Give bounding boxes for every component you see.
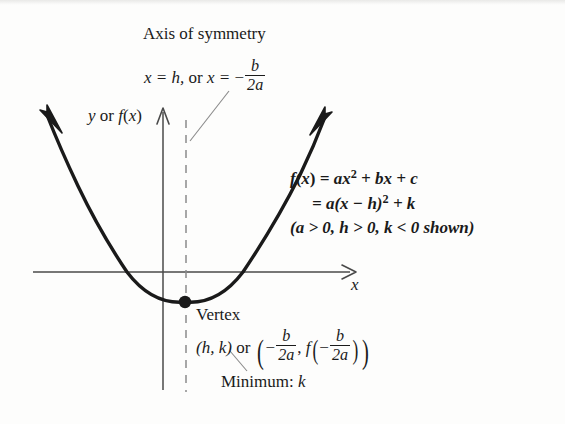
vertex-fraction-2: b 2a	[330, 328, 350, 364]
equation-line-standard-form: f(x) = ax2 + bx + c	[290, 168, 474, 193]
minimum-label-text: Minimum:	[221, 372, 294, 391]
axis-of-symmetry-fraction-denominator: 2a	[245, 77, 265, 93]
vertex-fraction-2-denominator: 2a	[330, 347, 350, 363]
vertex-minus-sign-1: −	[266, 338, 276, 357]
vertex-open-paren-inner: (	[312, 340, 318, 361]
y-axis-label-or: or	[100, 106, 114, 125]
x-axis-label: x	[351, 275, 359, 294]
vertex-open-paren-outer: (	[257, 339, 264, 365]
y-axis-label: y or f(x)	[88, 106, 142, 125]
axis-of-symmetry-fraction-numerator: b	[245, 58, 265, 74]
x-axis	[33, 265, 356, 279]
vertex-fraction-1-denominator: 2a	[276, 347, 296, 363]
axis-of-symmetry-minus-sign: −	[234, 68, 244, 87]
vertex-close-paren-inner: )	[353, 340, 359, 361]
vertex-formula: (h, k) or (− b 2a , f(− b 2a ))	[196, 328, 371, 365]
vertex-or: or	[236, 338, 250, 357]
vertex-point-marker	[179, 296, 191, 308]
axis-of-symmetry-formula: x = h, or x = − b 2a	[144, 58, 266, 94]
equation-line1-x: x	[301, 169, 310, 188]
equation-line2-main: = a(x − h)	[312, 194, 383, 213]
axis-of-symmetry-formula-prefix: x = h,	[144, 68, 184, 87]
equation-block: f(x) = ax2 + bx + c = a(x − h)2 + k (a >…	[290, 168, 474, 243]
equation-line1-rest-a: = ax	[316, 169, 351, 188]
vertex-fraction-2-numerator: b	[330, 328, 350, 344]
axis-of-symmetry-formula-x-equals: x =	[207, 68, 235, 87]
equation-line2-rest: + k	[389, 194, 416, 213]
minimum-label: Minimum: k	[221, 372, 306, 391]
y-axis	[157, 108, 169, 390]
axis-of-symmetry-fraction: b 2a	[245, 58, 265, 94]
minimum-label-value: k	[298, 372, 306, 391]
equation-line-vertex-form: = a(x − h)2 + k	[290, 193, 474, 218]
vertex-fraction-1: b 2a	[276, 328, 296, 364]
y-axis-label-close-paren: )	[136, 106, 142, 125]
vertex-comma: ,	[297, 338, 301, 357]
vertex-title: Vertex	[196, 305, 240, 324]
axis-of-symmetry-leader-line	[190, 91, 229, 141]
vertex-minus-sign-2: −	[319, 338, 329, 357]
axis-of-symmetry-title: Axis of symmetry	[143, 24, 266, 43]
equation-line-conditions: (a > 0, h > 0, k < 0 shown)	[290, 218, 474, 243]
axis-of-symmetry-formula-or: or	[189, 68, 203, 87]
vertex-close-paren-outer: )	[362, 339, 369, 365]
vertex-fraction-1-numerator: b	[276, 328, 296, 344]
figure-page: Axis of symmetry x = h, or x = − b 2a y …	[0, 0, 565, 424]
vertex-function-f: f	[306, 338, 311, 357]
vertex-pair-hk: (h, k)	[196, 338, 232, 357]
equation-line1-rest-b: + bx + c	[357, 169, 418, 188]
y-axis-label-y: y	[88, 106, 96, 125]
